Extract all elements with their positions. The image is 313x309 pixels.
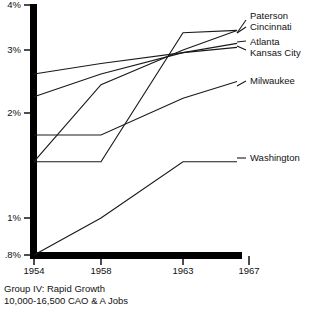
series-label-washington: Washington <box>250 153 300 164</box>
x-tick-label-1963: 1963 <box>162 266 204 276</box>
y-tick-label-1pct: 1% <box>0 213 21 223</box>
leader-kansas <box>237 46 246 50</box>
series-label-paterson: Paterson <box>250 11 288 22</box>
caption-line-subtitle: 10,000-16,500 CAO & A Jobs <box>4 295 128 307</box>
y-tick-marks <box>24 5 31 255</box>
leader-cincinnati <box>237 27 246 33</box>
chart-caption: Group IV: Rapid Growth 10,000-16,500 CAO… <box>4 283 128 306</box>
series-line-washington <box>34 162 237 255</box>
chart-root: 4% 3% 2% 1% .8% 1954 1958 1963 1967 Pate… <box>0 0 313 309</box>
label-leader-lines <box>237 20 246 158</box>
caption-line-title: Group IV: Rapid Growth <box>4 283 128 295</box>
series-label-milwaukee: Milwaukee <box>250 76 295 87</box>
x-axis-bar <box>30 252 242 259</box>
y-tick-label-3pct: 3% <box>0 45 21 55</box>
x-tick-label-1954: 1954 <box>13 266 55 276</box>
x-tick-label-1958: 1958 <box>80 266 122 276</box>
y-axis-bar <box>30 4 37 256</box>
leader-milwaukee <box>237 81 246 86</box>
leader-paterson <box>237 20 246 33</box>
y-tick-label-point8pct: .8% <box>0 250 21 260</box>
series-label-cincinnati: Cincinnati <box>250 22 292 33</box>
x-tick-label-1967: 1967 <box>228 266 270 276</box>
series-label-kansas-city: Kansas City <box>250 48 301 59</box>
y-tick-label-2pct: 2% <box>0 108 21 118</box>
leader-atlanta <box>237 41 246 42</box>
series-lines <box>34 30 237 255</box>
y-tick-label-4pct: 4% <box>0 0 21 10</box>
series-label-atlanta: Atlanta <box>250 37 280 48</box>
